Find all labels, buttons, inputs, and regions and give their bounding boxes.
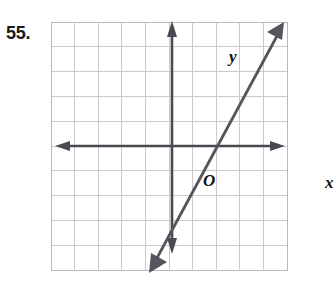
graph-canvas — [29, 8, 329, 283]
x-axis-label: x — [325, 174, 334, 191]
x-axis-left-arrowhead — [55, 141, 70, 151]
coordinate-graph: y x O — [51, 22, 287, 270]
x-axis — [55, 141, 285, 151]
x-axis-right-arrowhead — [270, 141, 285, 151]
problem-number-label: 55. — [6, 24, 30, 42]
origin-label: O — [203, 172, 215, 189]
y-axis-label: y — [229, 48, 237, 65]
